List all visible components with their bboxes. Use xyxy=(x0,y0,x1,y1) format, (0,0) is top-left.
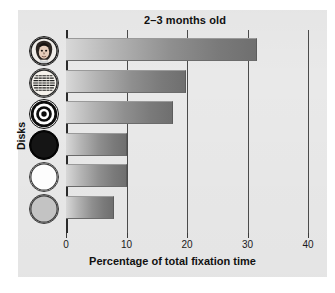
text-disk-icon xyxy=(29,68,59,98)
gray-disk-icon xyxy=(29,194,59,224)
white-disk-icon xyxy=(29,162,59,192)
y-axis-label: Disks xyxy=(15,106,27,166)
bar-gray xyxy=(66,196,114,219)
tick-10 xyxy=(127,233,128,238)
chart-title: 2–3 months old xyxy=(60,14,310,26)
tick-40 xyxy=(308,233,309,238)
bullseye-disk-icon xyxy=(29,99,59,129)
tick-label-10: 10 xyxy=(112,239,142,250)
bar-black xyxy=(66,133,127,156)
bar-bullseye xyxy=(66,101,173,124)
bar-white xyxy=(66,164,127,187)
black-disk-icon xyxy=(29,130,59,160)
tick-label-30: 30 xyxy=(233,239,263,250)
bar-text xyxy=(66,70,186,93)
tick-0 xyxy=(66,233,67,238)
chart-figure: 2–3 months old Disks xyxy=(0,0,335,293)
tick-label-40: 40 xyxy=(293,239,323,250)
tick-30 xyxy=(248,233,249,238)
tick-label-20: 20 xyxy=(172,239,202,250)
face-disk-icon xyxy=(29,36,59,66)
plot-area: 0 10 20 30 40 xyxy=(66,30,308,233)
bar-face xyxy=(66,38,257,61)
tick-20 xyxy=(187,233,188,238)
gridline-40 xyxy=(308,30,309,233)
x-axis-label: Percentage of total fixation time xyxy=(18,255,327,267)
tick-label-0: 0 xyxy=(51,239,81,250)
